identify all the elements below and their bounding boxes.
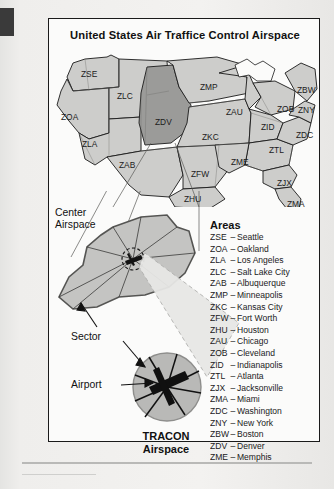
legend-name: Los Angeles — [237, 255, 284, 265]
legend-name: Atlanta — [237, 371, 264, 381]
legend-rows: ZSE–SeattleZOA–OaklandZLA–Los AngelesZLC… — [210, 232, 318, 464]
legend-name: Salt Lake City — [237, 267, 290, 277]
legend-code: ZID — [210, 360, 230, 372]
legend-row: ZDC–Washington — [210, 406, 310, 418]
legend-name: Washington — [237, 406, 282, 416]
legend-row: ZKC–Kansas City — [210, 302, 310, 314]
sector-callout: Sector — [71, 331, 101, 343]
legend-code: ZFW — [210, 313, 230, 325]
legend-row: ZSE–Seattle — [210, 232, 310, 244]
legend-row: ZOA–Oakland — [210, 244, 310, 256]
legend-code: ZJX — [210, 383, 230, 395]
legend-row: ZNY–New York — [210, 418, 310, 430]
map-label-zdv: ZDV — [155, 117, 172, 127]
legend-name: Minneapolis — [237, 290, 283, 300]
map-label-zmp: ZMP — [200, 82, 218, 92]
legend-name: Kansas City — [237, 302, 283, 312]
legend-code: ZDC — [210, 406, 230, 418]
map-label-zid: ZID — [261, 122, 275, 132]
center-airspace-callout: Center Airspace — [55, 207, 95, 230]
legend-title: Areas — [210, 219, 318, 231]
legend-name: Memphis — [237, 452, 272, 462]
figure-title: United States Air Traffice Control Airsp… — [49, 29, 321, 41]
legend-row: ZMP–Minneapolis — [210, 290, 310, 302]
legend-row: ZBW–Boston — [210, 429, 310, 441]
map-label-zdc: ZDC — [296, 130, 313, 140]
legend-name: Denver — [237, 441, 265, 451]
legend-row: ZJX–Jacksonville — [210, 383, 310, 395]
legend-name: Oakland — [237, 244, 269, 254]
legend-name: Jacksonville — [237, 383, 283, 393]
legend-row: ZHU–Houston — [210, 325, 310, 337]
tracon-line1: TRACON — [111, 430, 221, 443]
legend-code: ZTL — [210, 371, 230, 383]
map-label-zkc: ZKC — [202, 132, 219, 142]
legend-row: ZTL–Atlanta — [210, 371, 310, 383]
legend-code: ZOB — [210, 348, 230, 360]
legend-row: ZID–Indianapolis — [210, 360, 310, 372]
legend-code: ZMP — [210, 290, 230, 302]
legend-name: Fort Worth — [237, 313, 277, 323]
legend-code: ZMA — [210, 394, 230, 406]
legend-code: ZAU — [210, 336, 230, 348]
legend-code: ZKC — [210, 302, 230, 314]
map-label-zau: ZAU — [226, 107, 243, 117]
legend-row: ZAU–Chicago — [210, 336, 310, 348]
legend-name: Boston — [237, 429, 264, 439]
page-divider — [22, 462, 312, 464]
map-label-zse: ZSE — [81, 69, 97, 79]
legend-row: ZFW–Fort Worth — [210, 313, 310, 325]
tracon-airspace-label: TRACON Airspace — [111, 430, 221, 455]
map-label-zab: ZAB — [119, 160, 135, 170]
areas-legend: Areas ZSE–SeattleZOA–OaklandZLA–Los Ange… — [210, 219, 318, 464]
legend-code: ZAB — [210, 278, 230, 290]
map-label-zny: ZNY — [298, 105, 315, 115]
legend-row: ZMA–Miami — [210, 394, 310, 406]
legend-code: ZSE — [210, 232, 230, 244]
tracon-line2: Airspace — [111, 443, 221, 456]
map-label-ztl: ZTL — [269, 145, 284, 155]
map-label-zme: ZME — [231, 157, 249, 167]
legend-name: Miami — [237, 394, 260, 404]
legend-name: New York — [237, 418, 273, 428]
map-label-zfw: ZFW — [191, 169, 209, 179]
legend-code: ZDV — [210, 441, 230, 453]
legend-row: ZOB–Cleveland — [210, 348, 310, 360]
legend-name: Chicago — [237, 336, 268, 346]
legend-name: Seattle — [237, 232, 264, 242]
legend-name: Albuquerque — [237, 278, 285, 288]
legend-name: Houston — [237, 325, 269, 335]
legend-row: ZAB–Albuquerque — [210, 278, 310, 290]
us-airspace-map: ZSE ZLC ZOA ZLA ZAB ZDV ZMP ZKC ZFW ZHU … — [49, 47, 321, 207]
map-label-zjx: ZJX — [277, 178, 292, 188]
map-label-zbw: ZBW — [297, 85, 316, 95]
legend-row: ZDV–Denver — [210, 441, 310, 453]
legend-row: ZLA–Los Angeles — [210, 255, 310, 267]
figure-container: United States Air Traffice Control Airsp… — [48, 18, 320, 442]
legend-name: Cleveland — [237, 348, 275, 358]
map-label-zla: ZLA — [82, 139, 97, 149]
legend-row: ZLC–Salt Lake City — [210, 267, 310, 279]
legend-code: ZLC — [210, 267, 230, 279]
center-airspace-line2: Airspace — [55, 219, 95, 231]
page-divider-secondary — [22, 474, 96, 475]
legend-code: ZHU — [210, 325, 230, 337]
scan-artifact — [0, 8, 14, 36]
map-label-zoa: ZOA — [61, 112, 78, 122]
legend-code: ZLA — [210, 255, 230, 267]
map-label-zob: ZOB — [277, 104, 294, 114]
legend-code: ZNY — [210, 418, 230, 430]
legend-name: Indianapolis — [237, 360, 283, 370]
airport-callout: Airport — [71, 379, 102, 391]
map-label-zlc: ZLC — [117, 91, 133, 101]
legend-code: ZOA — [210, 244, 230, 256]
legend-code: ZBW — [210, 429, 230, 441]
center-airspace-line1: Center — [55, 207, 95, 219]
